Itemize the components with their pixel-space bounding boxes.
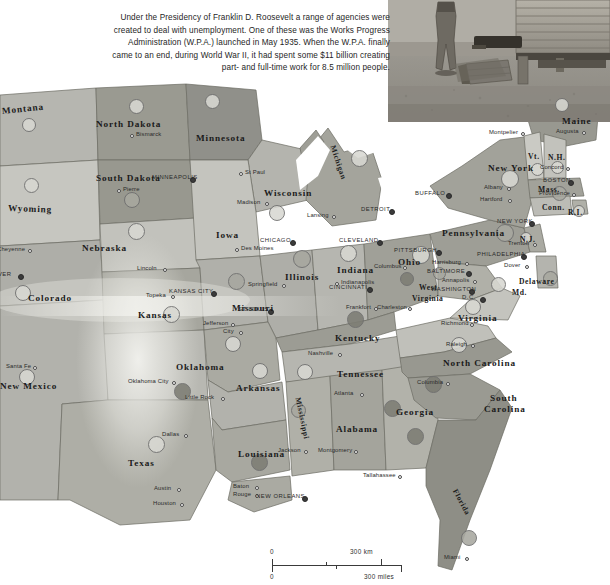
city-label: Concord <box>540 164 563 170</box>
city-label: CLEVELAND <box>339 237 379 243</box>
wpa-spending-circle <box>124 192 140 208</box>
city-label: Des Moines <box>241 245 274 251</box>
state-label: Georgia <box>396 407 434 417</box>
wpa-caption: Under the Presidency of Franklin D. Roos… <box>112 12 390 75</box>
city-label: Columbia <box>417 379 443 385</box>
city-label: Albany <box>484 184 503 190</box>
state-label: N.J. <box>520 235 535 244</box>
city-label: Hartford <box>480 196 502 202</box>
state-label: Arkansas <box>236 383 280 393</box>
city-dot <box>446 193 452 199</box>
state-label: Indiana <box>337 265 374 275</box>
city-label: Little Rock <box>185 394 214 400</box>
wpa-spending-circle <box>351 150 368 167</box>
state-label: N.H. <box>548 153 566 162</box>
state-label: Alabama <box>336 424 378 434</box>
state-label: Carolina <box>484 404 526 414</box>
state-label: Colorado <box>28 293 72 303</box>
scale-bar: 0 300 km 0 300 miles <box>272 548 402 582</box>
state-label: Tennessee <box>337 369 384 379</box>
city-label: Santa Fe <box>6 363 31 369</box>
state-label: South <box>490 393 517 403</box>
city-label: Annapolis <box>442 277 469 283</box>
state-label: West <box>419 283 437 292</box>
city-label: Montpelier <box>489 129 518 135</box>
state-label: New York <box>488 163 534 173</box>
city-label: BUFFALO <box>415 190 445 196</box>
wpa-spending-circle <box>400 272 414 286</box>
city-label: Augusta <box>556 128 579 134</box>
wpa-spending-circle <box>347 311 364 328</box>
city-label: St Paul <box>245 169 265 175</box>
city-label: Rouge <box>233 491 251 497</box>
city-label: Springfield <box>248 281 277 287</box>
wpa-spending-circle <box>228 273 245 290</box>
city-label: PHILADELPHIA <box>477 251 525 257</box>
city-label: KANSAS CITY <box>169 288 213 294</box>
state-label: Missouri <box>232 303 274 313</box>
city-label: City <box>223 328 234 334</box>
scale-miles-label: 300 miles <box>364 573 394 580</box>
wpa-spending-circle <box>407 428 424 445</box>
state-label: Vt. <box>528 152 540 161</box>
wpa-spending-circle <box>555 98 569 112</box>
city-dot <box>480 297 486 303</box>
state-label: Iowa <box>216 230 239 240</box>
city-label: Austin <box>154 485 171 491</box>
state-label: Virginia <box>412 294 444 303</box>
city-label: Lansing <box>307 212 329 218</box>
city-label: Atlanta <box>334 390 353 396</box>
city-dot <box>466 271 472 277</box>
state-label: Nebraska <box>82 243 127 253</box>
city-label: Miami <box>444 554 460 560</box>
wpa-photograph <box>388 0 610 122</box>
state-label: New Mexico <box>0 381 57 391</box>
city-label: Pierre <box>123 186 140 192</box>
state-label: Wisconsin <box>264 188 312 198</box>
city-label: Nashville <box>308 350 333 356</box>
city-label: Harrisburg <box>432 259 461 265</box>
city-label: Frankfort <box>346 304 371 310</box>
wpa-spending-circle <box>129 99 144 114</box>
state-label: North Dakota <box>96 119 161 129</box>
city-label: PITTSBURGH <box>394 247 437 253</box>
wpa-spending-circle <box>24 178 39 193</box>
map-page: · · · · · · <box>0 0 610 585</box>
state-label: Conn. <box>542 203 565 212</box>
state-label: Texas <box>128 458 155 468</box>
state-label: Wyoming <box>8 203 53 215</box>
state-label: Kentucky <box>335 333 380 343</box>
wpa-spending-circle <box>128 223 145 240</box>
wpa-spending-circle <box>252 363 268 379</box>
state-label: Delaware <box>519 277 554 286</box>
city-label: Montgomery <box>318 447 352 453</box>
scale-miles-zero: 0 <box>270 573 274 580</box>
wpa-spending-circle <box>340 245 357 262</box>
state-label: Louisiana <box>238 449 285 459</box>
state-label: Minnesota <box>196 133 245 143</box>
state-label: Virginia <box>458 313 498 323</box>
city-label: WASHINGTON <box>431 286 476 292</box>
wpa-spending-circle <box>461 530 477 546</box>
city-label: Madison <box>237 199 260 205</box>
city-label: Dallas <box>162 431 179 437</box>
city-label: Topeka <box>146 292 166 298</box>
scale-km-zero: 0 <box>270 548 274 555</box>
city-label: Oklahoma City <box>128 378 169 384</box>
city-label: DENVER <box>0 271 12 277</box>
city-label: Jefferson <box>203 320 228 326</box>
city-dot <box>18 274 24 280</box>
city-label: Charleston <box>377 304 407 310</box>
state-label: Pennsylvania <box>442 228 505 238</box>
state-label: Kansas <box>138 310 172 320</box>
city-label: DETROIT <box>361 206 390 212</box>
scale-km-label: 300 km <box>350 548 373 555</box>
city-label: Tallahassee <box>363 472 396 478</box>
city-label: NEW YORK <box>497 218 533 224</box>
state-label: R.I. <box>568 208 583 217</box>
city-label: Baton <box>233 483 249 489</box>
city-label: D.C. <box>462 294 476 300</box>
state-label: Mass. <box>538 185 560 194</box>
wpa-spending-circle <box>225 336 241 352</box>
state-label: South Dakota <box>96 173 161 183</box>
